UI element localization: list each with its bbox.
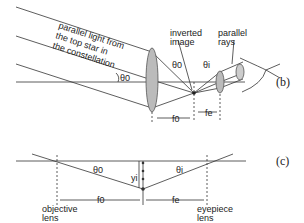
objective-label-2: lens [42, 213, 59, 223]
theta-o2-label: θ0 [172, 60, 182, 70]
c-f-o: f0 [97, 195, 105, 205]
c-theta-o: θ0 [93, 165, 103, 175]
f-e-label: fe [205, 108, 213, 118]
parallel-rays-label-2: rays [218, 37, 236, 47]
eyepiece-label-2: lens [197, 213, 214, 223]
c-theta-i: θi [176, 165, 183, 175]
eyepiece-lens-b [216, 71, 224, 93]
eye-lens [236, 64, 244, 80]
c-yi: yi [131, 173, 138, 183]
inverted-label-2: image [170, 37, 195, 47]
caption-b: (b) [276, 75, 290, 89]
caption-c: (c) [276, 154, 289, 168]
theta-i-label: θi [203, 60, 210, 70]
objective-lens-b [146, 48, 158, 112]
telescope-diagram: parallel light from the top star in the … [0, 0, 304, 223]
c-f-e: fe [172, 195, 180, 205]
theta-o-label: θ0 [120, 73, 130, 83]
f-o-label: f0 [172, 114, 180, 124]
